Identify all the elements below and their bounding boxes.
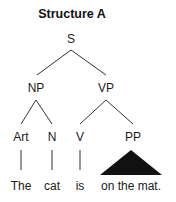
branch-np-art	[21, 100, 36, 124]
node-s: S	[67, 32, 75, 46]
word-is: is	[76, 179, 85, 193]
node-vp: VP	[98, 81, 114, 95]
pp-triangle	[100, 150, 162, 175]
branch-s-np	[37, 50, 71, 75]
syntax-tree-diagram: Structure A S NP VP Art N V PP The cat i…	[0, 0, 176, 202]
tree-branches	[0, 0, 176, 202]
word-cat: cat	[44, 179, 60, 193]
diagram-title: Structure A	[38, 7, 106, 21]
word-pp-phrase: on the mat.	[101, 179, 161, 193]
node-n: N	[48, 130, 57, 144]
branch-vp-pp	[106, 100, 133, 124]
node-np: NP	[28, 81, 45, 95]
node-art: Art	[13, 130, 28, 144]
branch-np-n	[36, 100, 52, 124]
node-pp: PP	[125, 130, 141, 144]
branch-s-vp	[71, 50, 106, 75]
branch-vp-v	[80, 100, 106, 124]
node-v: V	[76, 130, 84, 144]
word-the: The	[11, 179, 32, 193]
